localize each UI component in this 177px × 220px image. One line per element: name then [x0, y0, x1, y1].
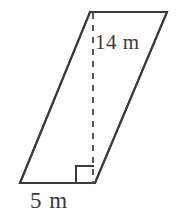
- parallelogram-diagram-svg: [0, 0, 177, 220]
- geometry-figure: 14 m 5 m: [0, 0, 177, 220]
- right-angle-square: [76, 166, 93, 183]
- base-label: 5 m: [30, 189, 68, 212]
- height-label: 14 m: [95, 32, 140, 53]
- left-edge: [20, 12, 90, 183]
